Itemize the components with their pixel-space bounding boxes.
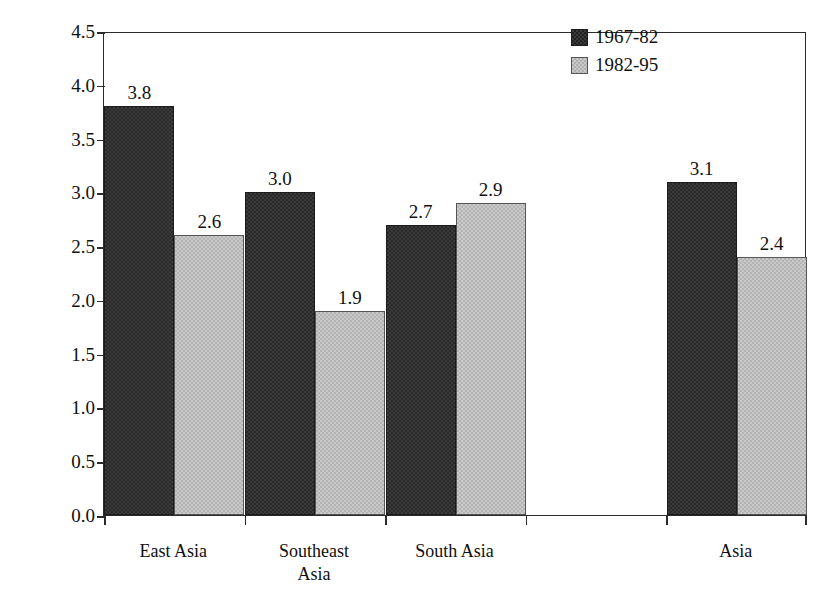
x-axis-label: SoutheastAsia: [244, 540, 385, 586]
x-tick-mark: [385, 515, 387, 525]
bar-value-label: 1.9: [315, 287, 385, 309]
legend: 1967-821982-95: [571, 23, 658, 79]
bar-value-label: 2.6: [174, 211, 244, 233]
bar-series1: [104, 106, 174, 515]
legend-item: 1982-95: [571, 51, 658, 79]
legend-item: 1967-82: [571, 23, 658, 51]
x-axis-label: East Asia: [103, 540, 244, 563]
x-axis-label-line: South Asia: [384, 540, 525, 563]
x-tick-mark: [666, 515, 668, 525]
bar-value-label: 3.8: [104, 82, 174, 104]
bar-value-label: 3.1: [667, 158, 737, 180]
legend-swatch: [571, 29, 588, 46]
y-tick-label: 3.0: [71, 182, 95, 204]
x-axis-label: Asia: [665, 540, 806, 563]
x-tick-mark: [805, 515, 807, 525]
bar-value-label: 3.0: [245, 168, 315, 190]
y-tick-label: 4.5: [71, 21, 95, 43]
bar-value-label: 2.9: [456, 179, 526, 201]
bar-series2: [737, 257, 807, 515]
legend-swatch: [571, 57, 588, 74]
y-tick-label: 4.0: [71, 75, 95, 97]
x-axis-label-line: Asia: [244, 563, 385, 586]
y-tick-label: 1.0: [71, 397, 95, 419]
x-axis-label: South Asia: [384, 540, 525, 563]
bar-series2: [174, 235, 244, 515]
bar-series2: [315, 311, 385, 515]
x-tick-mark: [245, 515, 247, 525]
plot-area: percent per year 0.00.51.01.52.02.53.03.…: [103, 32, 806, 516]
x-tick-mark: [526, 515, 528, 525]
legend-label: 1982-95: [595, 51, 658, 79]
y-tick-label: 2.5: [71, 236, 95, 258]
y-tick-label: 0.5: [71, 451, 95, 473]
y-tick-label: 3.5: [71, 129, 95, 151]
y-tick-label: 1.5: [71, 344, 95, 366]
x-tick-mark: [104, 515, 106, 525]
legend-label: 1967-82: [595, 23, 658, 51]
bar-value-label: 2.7: [386, 201, 456, 223]
y-tick-mark: [97, 32, 105, 34]
y-tick-label: 0.0: [71, 505, 95, 527]
bar-series1: [245, 192, 315, 515]
x-axis-label-line: Southeast: [244, 540, 385, 563]
bar-chart: percent per year 0.00.51.01.52.02.53.03.…: [0, 0, 820, 597]
bar-series2: [456, 203, 526, 515]
x-axis-label-line: East Asia: [103, 540, 244, 563]
bar-series1: [667, 182, 737, 515]
x-axis-label-line: Asia: [665, 540, 806, 563]
bar-series1: [386, 225, 456, 515]
bar-value-label: 2.4: [737, 233, 807, 255]
y-tick-label: 2.0: [71, 290, 95, 312]
